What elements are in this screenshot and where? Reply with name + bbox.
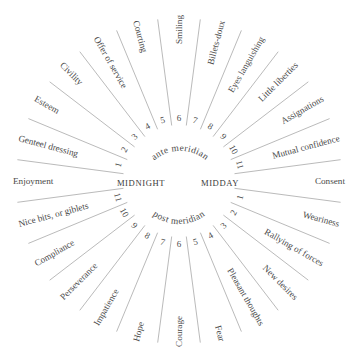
hour-number: 2 (228, 208, 239, 217)
hour-number: 6 (177, 239, 182, 249)
sector-label: Little liberties (256, 60, 300, 104)
midnight-label: MIDNIGHT (117, 178, 165, 188)
sector-label: Courting (131, 19, 149, 54)
hour-number: 5 (159, 115, 166, 126)
sector-label: New desires (261, 263, 300, 302)
sector-label: Esteem (33, 94, 61, 116)
sector-label: Compliance (33, 237, 76, 268)
hour-number: 10 (118, 206, 131, 219)
ante-meridian-text: ante meridian (149, 143, 211, 162)
hour-number: 6 (177, 113, 182, 123)
love-clock-diagram: ConsentMutual confidenceAssignationsLitt… (0, 0, 358, 363)
hour-number: 5 (192, 236, 199, 247)
ante-meridian-label: ante meridian (149, 143, 211, 162)
hour-number: 4 (206, 230, 215, 241)
hour-number: 7 (159, 236, 166, 247)
post-meridian-text: post meridian (151, 209, 206, 227)
hour-number: 9 (129, 220, 140, 231)
post-meridian-label: post meridian (151, 209, 206, 227)
sector-divider-line (158, 19, 172, 125)
sector-label: Enjoyment (13, 176, 54, 186)
midday-label: MIDDAY (201, 178, 239, 188)
sector-divider-line (50, 82, 135, 147)
sector-label: Nice bits, or giblets (17, 200, 90, 228)
sector-label: Impatience (92, 287, 121, 327)
hour-number: 11 (234, 159, 246, 170)
hour-number: 2 (119, 145, 130, 154)
sector-label: Genteel dressing (17, 133, 79, 159)
sector-divider-line (17, 188, 123, 202)
hour-number: 8 (143, 230, 152, 241)
hour-number: 11 (112, 192, 124, 203)
hour-number: 3 (218, 220, 229, 231)
hour-number: 9 (218, 131, 229, 142)
sector-label: Mutual confidence (271, 133, 340, 161)
sector-divider-line (235, 160, 341, 174)
sector-labels: ConsentMutual confidenceAssignationsLitt… (13, 15, 345, 347)
hour-number: 1 (113, 161, 124, 168)
sector-label: Consent (315, 176, 346, 186)
sector-divider-line (117, 233, 158, 332)
sector-label: Offer of service (92, 35, 130, 90)
hour-number: 3 (129, 131, 140, 142)
sector-label: Perseverance (58, 261, 99, 302)
sector-label: Courage (174, 316, 184, 347)
sector-label: Eyes languishing (226, 34, 266, 94)
sector-label: Billets-doux (205, 19, 227, 66)
sector-label: Weariness (302, 209, 341, 228)
hour-number: 7 (192, 115, 199, 126)
hour-number: 8 (206, 121, 215, 132)
sector-label: Rallying of forces (263, 226, 326, 268)
sector-label: Pleasant thoughts (225, 266, 266, 327)
sector-divider-line (235, 188, 341, 202)
hour-number: 10 (227, 143, 240, 156)
sector-divider-line (186, 237, 200, 343)
sector-divider-line (158, 237, 172, 343)
sector-label: Hope (131, 321, 146, 343)
sector-label: Fear (213, 324, 227, 342)
sector-divider-line (17, 160, 123, 174)
hour-number: 1 (234, 194, 245, 201)
sector-label: Civility (58, 60, 85, 87)
sector-divider-line (186, 19, 200, 125)
hour-number: 4 (143, 121, 152, 132)
sector-label: Smiling (174, 15, 184, 45)
